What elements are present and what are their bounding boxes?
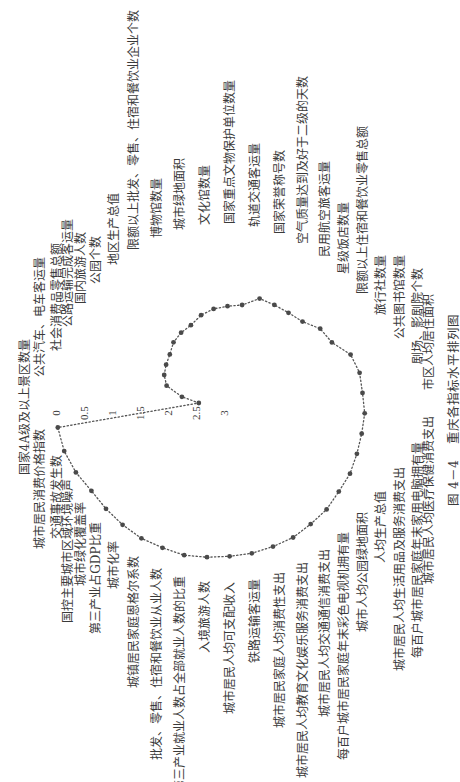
data-point: [225, 304, 230, 309]
category-label: 旅行社数量: [373, 255, 388, 315]
data-point: [120, 522, 125, 527]
radial-tick-label: 1: [106, 410, 118, 416]
category-label: 每百户城市居民家庭年末彩色电视机拥有量: [336, 532, 351, 760]
data-point: [348, 471, 353, 476]
radial-tick-label: 2: [162, 410, 174, 416]
category-label: 入境旅游人数: [197, 581, 212, 653]
data-point: [160, 545, 165, 550]
data-point: [182, 553, 187, 558]
data-point: [308, 522, 313, 527]
figure-page: 00.511.522.53 国家4A级及以上景区数量公共汽车、电车客运量社会消费…: [0, 0, 460, 782]
data-point: [240, 303, 245, 308]
data-point: [355, 451, 360, 456]
data-point: [336, 489, 341, 494]
category-label: 公共图书馆数量: [392, 255, 407, 339]
radial-axis-ticks: 00.511.522.53: [50, 406, 230, 420]
data-point: [199, 313, 204, 318]
radial-tick-label: 2.5: [190, 406, 202, 420]
category-label: 国内旅游人数: [73, 232, 88, 304]
category-label: 空气质量达到及好于二级的天数: [295, 76, 310, 244]
data-point: [272, 303, 277, 308]
category-label: 城市居民人均交通通信消费支出: [317, 549, 332, 717]
data-line: [58, 299, 365, 558]
data-point: [324, 507, 329, 512]
data-point: [189, 323, 194, 328]
caption-number: 图 4－4: [446, 460, 460, 506]
data-point: [139, 536, 144, 541]
category-label: 公园个数: [88, 236, 103, 284]
radial-tick-label: 0: [50, 410, 62, 416]
category-label: 城市绿地面积: [173, 158, 188, 230]
data-point: [286, 310, 291, 315]
category-label: 城市化率: [106, 541, 121, 589]
data-point: [357, 370, 362, 375]
data-point: [74, 470, 79, 475]
category-label: 城镇居民家庭恩格尔系数: [126, 556, 141, 688]
category-label: 城市居民消费价格指数: [32, 429, 47, 549]
data-point: [330, 340, 335, 345]
category-label: 城市居民人均生活用品及服务消费支出: [392, 467, 407, 671]
data-point: [162, 373, 167, 378]
radar-chart: 00.511.522.53 国家4A级及以上景区数量公共汽车、电车客运量社会消费…: [0, 0, 460, 782]
category-label: 地区生产总值: [106, 193, 121, 265]
data-point: [205, 555, 210, 560]
data-point: [211, 307, 216, 312]
data-point: [164, 383, 169, 388]
radial-tick-label: 3: [218, 410, 230, 416]
data-point: [55, 425, 60, 430]
data-point: [171, 340, 176, 345]
category-label: 文化馆数量: [197, 165, 212, 225]
category-label: 国家荣誉称号数: [272, 150, 287, 234]
category-label: 市区人均居住面积: [421, 294, 436, 390]
data-point: [179, 330, 184, 335]
category-label: 轨道交通客运量: [247, 143, 262, 227]
category-label: 城市居民家庭人均消费性支出: [272, 572, 287, 728]
category-label: 限额以上批发、零售、住宿和餐饮业企业个数: [126, 10, 141, 250]
data-point: [291, 535, 296, 540]
category-label: 城市居民人均教育文化娱乐服务消费支出: [295, 562, 310, 778]
data-point: [62, 449, 67, 454]
category-label: 星级饭店数量: [336, 202, 351, 274]
category-label: 第三产业就业人数占全部就业人数的比重: [173, 576, 188, 782]
radial-tick-label: 1.5: [134, 406, 146, 420]
data-point: [348, 352, 353, 357]
data-point: [180, 394, 185, 399]
data-point: [227, 554, 232, 559]
data-point: [318, 326, 323, 331]
data-point: [164, 362, 169, 367]
category-label: 公共汽车、电车客运量: [32, 257, 47, 377]
caption-title: 重庆各指标水平排列图: [446, 314, 460, 444]
category-labels: 国家4A级及以上景区数量公共汽车、电车客运量社会消费品零售总额公路运输完成客运量…: [17, 10, 436, 782]
data-point: [257, 296, 262, 301]
figure-caption: 图 4－4 重庆各指标水平排列图: [446, 314, 460, 506]
data-point: [167, 352, 172, 357]
data-point: [271, 544, 276, 549]
data-point: [360, 391, 365, 396]
category-label: 铁路运输客运量: [247, 579, 262, 663]
category-label: 第三产业占GDP比重: [88, 523, 103, 634]
data-point: [196, 401, 201, 406]
category-label: 交通事故发生数: [49, 455, 64, 539]
data-point: [359, 431, 364, 436]
category-label: 批发、零售、住宿和餐饮业从业人数: [149, 568, 164, 760]
category-label: 城市人均公园绿地面积: [355, 512, 370, 632]
category-label: 每百户城市居民家庭年末家用电脑拥有量: [410, 442, 425, 658]
category-label: 国家4A级及以上景区数量: [17, 339, 32, 475]
category-label: 民用航空旅客运量: [317, 161, 332, 257]
category-label: 博物馆数量: [149, 178, 164, 238]
category-label: 人均生产总值: [373, 491, 388, 563]
category-label: 国家重点文物保护单位数量: [222, 80, 237, 224]
data-point: [249, 551, 254, 556]
data-point: [300, 319, 305, 324]
radial-tick-label: 0.5: [78, 406, 90, 420]
data-point: [89, 488, 94, 493]
data-series: [55, 296, 367, 559]
data-point: [104, 506, 109, 511]
category-label: 限额以上住宿和餐饮业零售总额: [355, 126, 370, 294]
category-label: 城市居民人均可支配收入: [222, 582, 237, 714]
data-point: [362, 411, 367, 416]
